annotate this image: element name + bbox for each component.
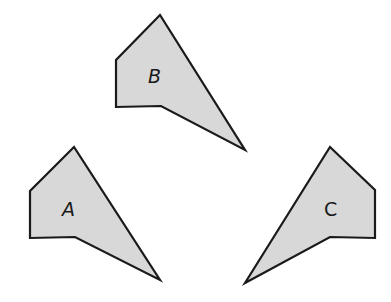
shape-b: B bbox=[116, 15, 245, 150]
shapes-diagram: B A C bbox=[0, 0, 391, 302]
shape-c: C bbox=[245, 147, 375, 283]
shape-b-polygon bbox=[116, 15, 245, 150]
shape-c-label: C bbox=[324, 198, 337, 220]
shape-a-label: A bbox=[60, 198, 75, 220]
shape-c-polygon bbox=[245, 147, 375, 283]
shape-a: A bbox=[30, 147, 160, 280]
shape-a-polygon bbox=[30, 147, 160, 280]
shape-b-label: B bbox=[148, 65, 161, 87]
